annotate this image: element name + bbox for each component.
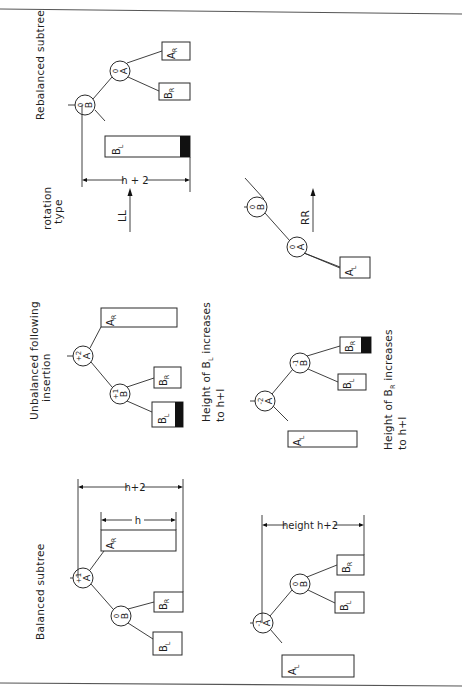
ll-arrow-head [128,188,133,196]
node-a-label: A [81,574,92,581]
dim-arrow-bottom [359,523,364,527]
edge-b-bl [127,401,152,412]
dim-inner-arrow-bottom [171,518,176,522]
node-b-label: B [298,360,309,367]
node-a-label: A [263,397,274,404]
edge-b-br [128,602,154,609]
edge-b-a [93,77,112,99]
edge-a-br [128,77,159,91]
header-unbalanced-line1: Unbalanced following [28,301,40,420]
header-unbalanced-line2: insertion [40,353,52,402]
dim-arrow-top [82,178,87,182]
edge-b-br [127,378,154,387]
node-b-label: B [83,102,94,109]
edge-a-al [270,629,282,643]
edge-b-br [307,565,337,577]
node-a-label: A [81,352,92,359]
node-b-label: B [255,204,266,211]
edge-b-br [307,346,340,356]
subtree-bl-growth [180,136,190,157]
node-a-label: A [118,67,129,74]
edge-b-a [265,213,290,241]
upright-figure: Balanced subtree Unbalanced following in… [28,10,408,677]
edge-a-b [270,590,292,616]
header-balanced: Balanced subtree [34,543,46,640]
dim-outer-arrow-bottom [178,485,183,489]
rr-rebalanced-tree: 0 B 0 A AL [244,178,370,278]
dim-outer-arrow-top [78,485,83,489]
bottom-rule [0,683,462,686]
subtree-bl-growth [175,402,183,427]
dim-label: h + 2 [121,175,148,186]
ll-rebalanced-tree: 0 B 0 A BL BR AR h + 2 [68,42,190,192]
rr-rotation-arrow: RR [299,188,316,232]
rr-caption-line1: Height of BR increases [382,329,397,450]
subtree-br-growth [361,337,371,353]
rr-rotation-label: RR [299,210,311,225]
edge-a-ar [90,551,104,570]
ll-unbalanced-tree: +2 A +1 B BL BR AR Height of BL increase… [67,302,226,427]
edge-b-bl [308,590,335,603]
edge-a-ar [127,51,162,63]
figure-page: Balanced subtree Unbalanced following in… [0,0,462,687]
dim-inner-label: h [135,515,141,526]
header-rotation-type-line2: type [52,199,64,224]
top-rule [0,9,462,14]
rr-arrow-head [311,188,316,196]
rr-balanced-tree: -1 A 0 B AL BL BR height h+2 [250,515,364,677]
edge-b-bl [95,110,105,121]
edge-a-al-line [304,253,340,267]
rr-caption-line2: to h+I [396,416,408,450]
dim-label: height h+2 [282,520,338,531]
edge-a-b [91,584,113,609]
edge-a-b [91,362,112,387]
ll-balanced-tree: +1 A 0 B BL BR AR h+2 h [70,479,183,655]
dim-arrow-top [262,523,267,527]
edge-b-br [245,178,264,199]
edge-a-al [273,406,288,421]
dim-arrow-bottom [185,178,190,182]
header-rebalanced: Rebalanced subtree [34,10,46,120]
edge-b-bl [308,369,338,382]
node-a-label: A [261,619,272,626]
edge-a-ar [90,327,101,348]
dim-inner-arrow-top [101,518,106,522]
edge-b-bl [128,623,153,639]
dim-outer-label: h+2 [124,482,145,493]
node-b-label: B [118,391,129,398]
ll-caption-line2: to h+I [214,388,226,422]
node-b-label: B [298,581,309,588]
rr-unbalanced-tree: -2 A -1 B AL BL BR Height of BR increase… [250,329,408,450]
ll-rotation-label: LL [116,210,128,222]
rotated-page-svg: Balanced subtree Unbalanced following in… [0,0,462,687]
node-a-label: A [295,243,306,250]
ll-caption-line1: Height of BL increases [200,302,215,422]
edge-a-b [272,369,293,394]
ll-rotation-arrow: LL [116,188,133,232]
node-b-label: B [119,613,130,620]
